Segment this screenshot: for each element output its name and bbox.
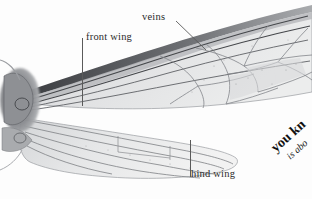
- label-front-wing: front wing: [86, 31, 132, 42]
- leader-line-front-wing: [82, 38, 83, 106]
- label-hind-wing: hind wing: [191, 168, 235, 179]
- label-veins: veins: [142, 11, 165, 22]
- illustration-page: veins front wing hind wing you kn is abo: [0, 0, 312, 199]
- insect-wing-figure: [0, 0, 312, 199]
